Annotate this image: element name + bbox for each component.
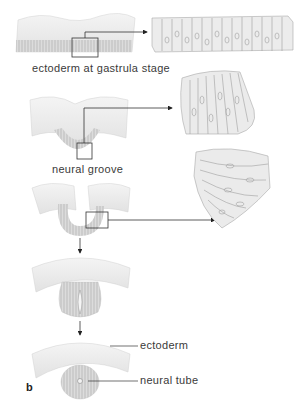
neural-closing-sheet xyxy=(32,258,130,335)
label-neural-tube: neural tube xyxy=(140,374,198,386)
label-gastrula-stage: ectoderm at gastrula stage xyxy=(32,62,170,74)
gastrula-cell-detail xyxy=(152,16,293,52)
label-neural-groove: neural groove xyxy=(52,163,123,175)
panel-letter: b xyxy=(26,381,33,393)
groove-cell-detail xyxy=(181,71,255,134)
fold-cell-detail xyxy=(194,149,270,228)
neural-tube-stage xyxy=(32,343,138,399)
neural-fold-sheet xyxy=(32,183,215,253)
gastrula-ectoderm-sheet xyxy=(16,13,147,57)
label-ectoderm: ectoderm xyxy=(140,339,188,351)
neural-groove-sheet xyxy=(30,97,172,159)
